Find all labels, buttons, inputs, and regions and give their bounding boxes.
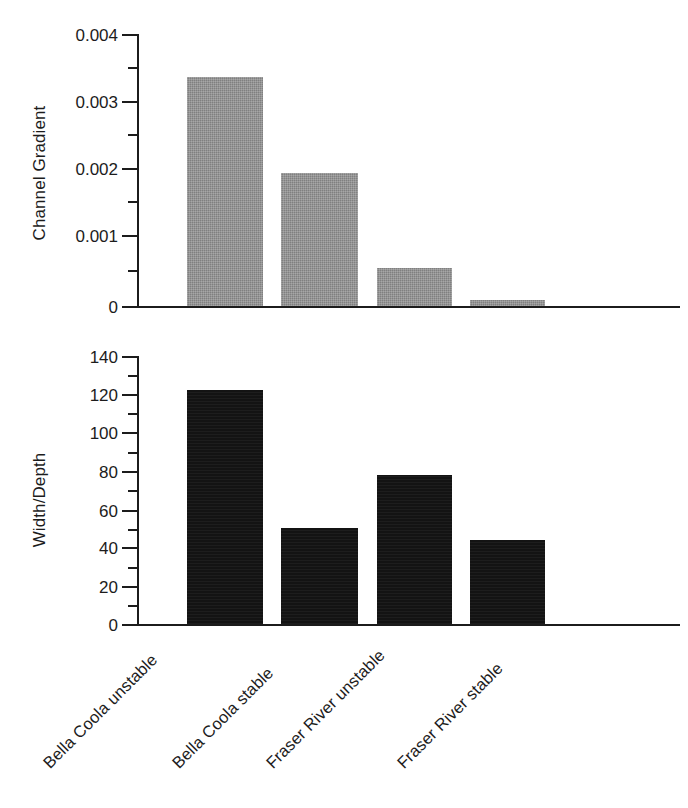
figure-container: Channel Gradient 0.004 0.003 0.002 0.001… (0, 0, 688, 808)
category-label-bella-coola-unstable: Bella Coola unstable (39, 650, 161, 772)
category-axis-labels: Bella Coola unstable Bella Coola stable … (0, 0, 688, 808)
category-label-bella-coola-stable: Bella Coola stable (168, 663, 277, 772)
category-label-fraser-river-stable: Fraser River stable (393, 659, 506, 772)
category-label-fraser-river-unstable: Fraser River unstable (262, 646, 388, 772)
